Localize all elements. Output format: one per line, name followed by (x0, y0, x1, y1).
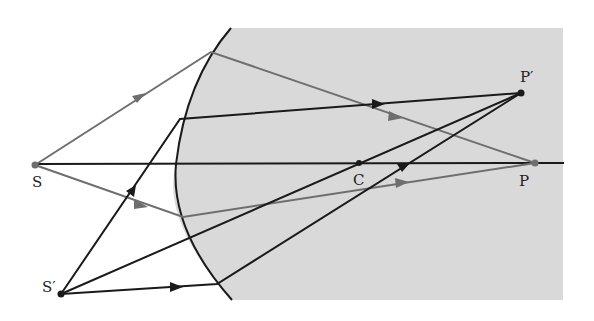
label-P: P (519, 172, 529, 190)
point-S (32, 162, 39, 169)
point-C (356, 160, 362, 166)
point-P-prime (518, 90, 525, 97)
label-S: S (32, 173, 42, 191)
point-P (532, 160, 539, 167)
label-C: C (353, 171, 364, 189)
optical-axis (35, 163, 564, 164)
label-P-prime: P′ (520, 68, 534, 86)
arrow-icon (170, 282, 183, 292)
refraction-diagram: S S′ C P P′ (0, 0, 594, 321)
label-S-prime: S′ (42, 278, 56, 296)
point-S-prime (58, 291, 65, 298)
